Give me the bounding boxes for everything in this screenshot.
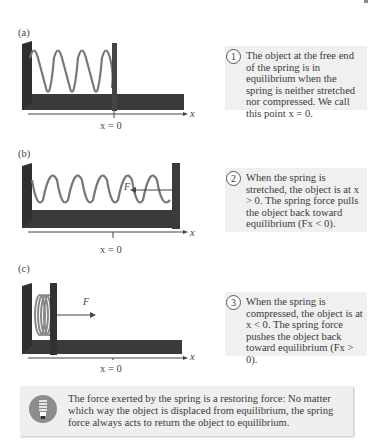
- force-label-b: F: [124, 181, 130, 192]
- panel-label-a: (a): [18, 27, 30, 38]
- x-axis-label-a: x: [190, 108, 195, 119]
- note-text: The force exerted by the spring is a res…: [68, 393, 348, 430]
- spring-diagram-equilibrium: [0, 38, 190, 118]
- callout-number-2: 2: [226, 171, 241, 186]
- x-zero-label-a: x = 0: [100, 120, 122, 131]
- panel-label-b: (b): [18, 148, 30, 159]
- callout-equilibrium: 1 The object at the free end of the spri…: [225, 46, 367, 110]
- x-axis-label-c: x: [190, 351, 195, 362]
- callout-stretched: 2 When the spring is stretched, the obje…: [225, 168, 367, 232]
- lightbulb-icon: [29, 395, 57, 423]
- callout-text-1: The object at the free end of the spring…: [246, 50, 363, 120]
- panel-label-c: (c): [18, 263, 30, 274]
- x-zero-label-b: x = 0: [100, 244, 122, 255]
- callout-number-3: 3: [226, 295, 241, 310]
- callout-text-2: When the spring is stretched, the object…: [246, 172, 363, 230]
- spring-diagram-stretched: [0, 160, 190, 240]
- x-zero-label-c: x = 0: [100, 363, 122, 374]
- callout-compressed: 3 When the spring is compressed, the obj…: [225, 292, 367, 356]
- callout-number-1: 1: [226, 49, 241, 64]
- force-label-c: F: [83, 296, 89, 307]
- callout-text-3: When the spring is compressed, the objec…: [246, 296, 363, 366]
- restoring-force-note: The force exerted by the spring is a res…: [20, 386, 353, 436]
- x-axis-label-b: x: [190, 227, 195, 238]
- corner-mark: [364, 0, 368, 3]
- spring-diagram-compressed: [0, 280, 190, 360]
